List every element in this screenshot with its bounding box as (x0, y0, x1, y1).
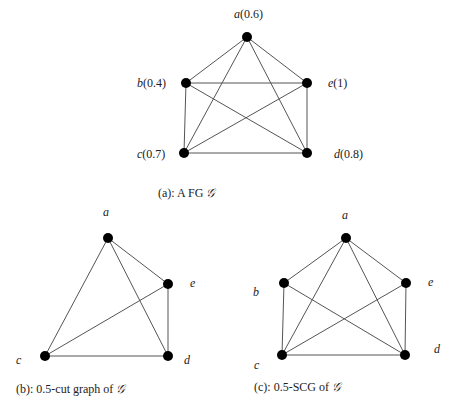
edge-a-d (108, 238, 168, 356)
node-label-c: c(0.7) (137, 147, 165, 161)
node-e (302, 78, 312, 88)
node-label-e: e (428, 275, 434, 289)
node-a (103, 233, 113, 243)
edge-a-c (45, 238, 108, 356)
edge-a-b (284, 238, 346, 283)
node-label-b: b (253, 285, 259, 299)
node-c (277, 350, 287, 360)
fuzzy-graph-figure: a(0.6)b(0.4)e(1)c(0.7)d(0.8) aecd abecd … (0, 0, 454, 416)
edge-e-d (405, 283, 406, 355)
node-label-e: e (190, 276, 196, 290)
node-d (302, 148, 312, 158)
edge-a-b (186, 37, 247, 83)
node-e (401, 278, 411, 288)
caption-c: (c): 0.5-SCG of 𝒢 (254, 380, 343, 394)
node-label-d: d (434, 342, 441, 356)
node-c (179, 148, 189, 158)
node-c (40, 351, 50, 361)
node-e (163, 279, 173, 289)
edge-a-e (346, 238, 406, 283)
node-b (181, 78, 191, 88)
node-label-a: a (103, 205, 109, 219)
edge-a-c (282, 238, 346, 355)
node-d (400, 350, 410, 360)
node-label-d: d (184, 353, 191, 367)
node-label-a: a (342, 208, 348, 222)
edge-a-e (247, 37, 307, 83)
node-d (163, 351, 173, 361)
edge-a-e (108, 238, 168, 284)
node-b (279, 278, 289, 288)
figure-c-scg: abecd (253, 208, 441, 372)
node-label-e: e(1) (328, 76, 347, 90)
node-label-c: c (254, 358, 260, 372)
caption-a: (a): A FG 𝒢 (158, 186, 217, 200)
figure-b-cut-graph: aecd (16, 205, 196, 367)
node-label-b: b(0.4) (137, 76, 166, 90)
node-label-d: d(0.8) (334, 147, 363, 161)
edge-b-c (282, 283, 284, 355)
figure-a-fuzzy-graph: a(0.6)b(0.4)e(1)c(0.7)d(0.8) (137, 7, 363, 161)
edge-b-c (184, 83, 186, 153)
node-label-c: c (16, 353, 22, 367)
caption-b: (b): 0.5-cut graph of 𝒢 (16, 382, 127, 396)
node-a (242, 32, 252, 42)
node-label-a: a(0.6) (234, 7, 263, 21)
node-a (341, 233, 351, 243)
